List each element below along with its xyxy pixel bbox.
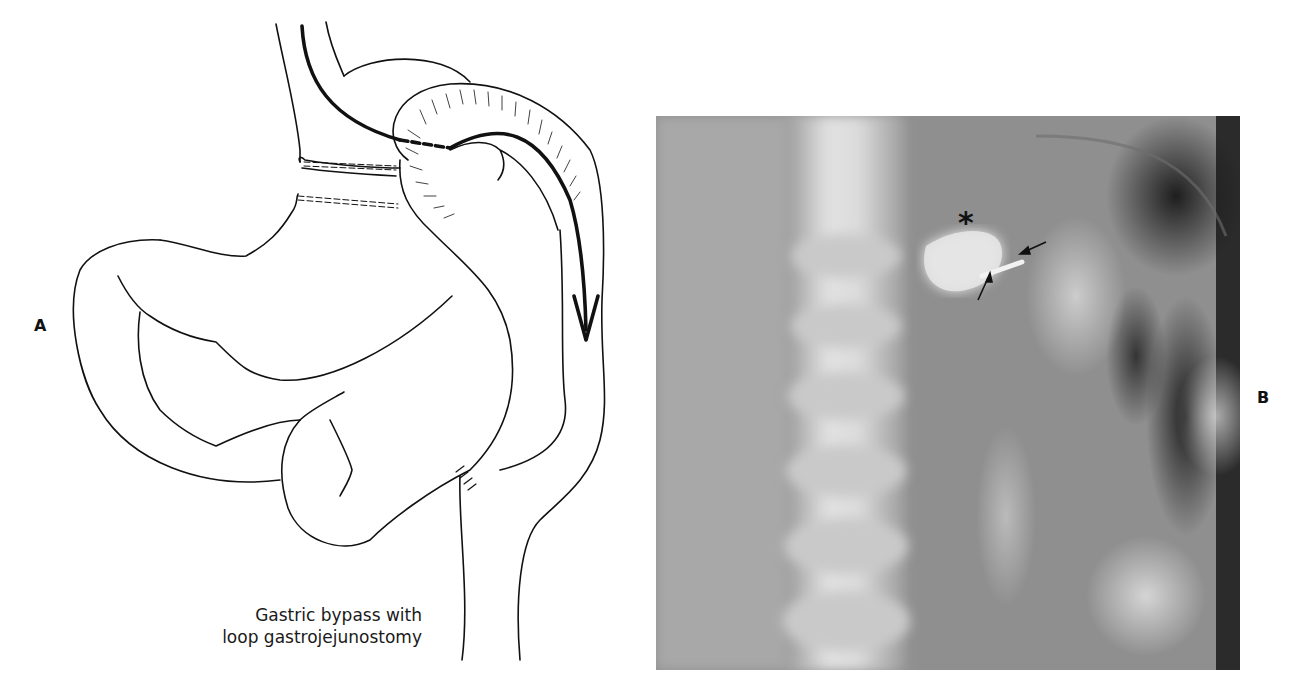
panel-label-b: B bbox=[1257, 388, 1269, 407]
remnant-stomach-outline bbox=[73, 240, 280, 482]
upper-gi-radiograph bbox=[656, 116, 1240, 670]
remnant-stomach-inner-fold bbox=[118, 276, 452, 380]
caption-line-2: loop gastrojejunostomy bbox=[150, 626, 422, 648]
jejunum-fold-detail bbox=[300, 392, 352, 496]
efferent-limb bbox=[460, 476, 465, 660]
loop-shading-hatch bbox=[406, 90, 580, 218]
gastric-bypass-illustration bbox=[0, 0, 640, 688]
esophagus-right-wall bbox=[326, 22, 344, 76]
food-path-line bbox=[302, 26, 400, 140]
gastric-pouch-outline bbox=[299, 59, 470, 168]
figure-caption: Gastric bypass with loop gastrojejunosto… bbox=[150, 604, 422, 648]
jejunal-loop-outer bbox=[393, 84, 604, 660]
jejunal-loop-inner bbox=[282, 160, 513, 546]
caption-line-1: Gastric bypass with bbox=[150, 604, 422, 626]
panel-label-a: A bbox=[34, 316, 46, 335]
afferent-limb-right bbox=[500, 230, 566, 470]
food-path-dashed bbox=[400, 140, 450, 148]
staple-line-lower bbox=[298, 196, 398, 208]
esophagus-left-wall bbox=[276, 24, 300, 162]
asterisk-marker: * bbox=[958, 208, 974, 238]
anastomosis-sutures bbox=[456, 466, 476, 490]
remnant-stomach-top bbox=[160, 194, 298, 256]
